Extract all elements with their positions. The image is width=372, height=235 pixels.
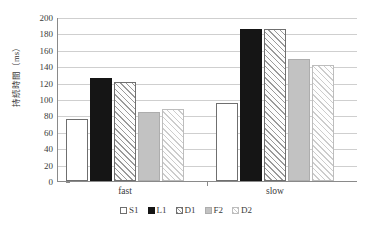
bar-fast-s1[interactable] — [66, 119, 88, 181]
legend-item-d2[interactable]: D2 — [232, 206, 252, 215]
legend-label: D1 — [185, 206, 196, 215]
y-tick-label: 20 — [19, 162, 53, 171]
legend-swatch-icon — [148, 207, 155, 214]
bar-group-fast — [66, 18, 186, 181]
bar-slow-l1[interactable] — [240, 29, 262, 181]
legend-label: S1 — [129, 206, 139, 215]
y-tick-label: 140 — [19, 63, 53, 72]
legend-swatch-icon — [232, 207, 239, 214]
y-tick-label: 60 — [19, 129, 53, 138]
y-tick-label: 40 — [19, 145, 53, 154]
bar-slow-d2[interactable] — [312, 65, 334, 181]
y-tick-label: 100 — [19, 96, 53, 105]
x-tick-mark — [207, 182, 208, 186]
legend-item-l1[interactable]: L1 — [148, 206, 167, 215]
legend-swatch-icon — [120, 207, 127, 214]
legend-label: L1 — [157, 206, 167, 215]
y-tick-label: 180 — [19, 30, 53, 39]
legend-label: D2 — [241, 206, 252, 215]
y-tick-label: 120 — [19, 80, 53, 89]
bar-slow-f2[interactable] — [288, 59, 310, 181]
x-axis-label-slow: slow — [235, 186, 315, 196]
x-axis-label-fast: fast — [85, 186, 165, 196]
bar-slow-d1[interactable] — [264, 29, 286, 181]
legend-swatch-icon — [205, 207, 212, 214]
chart-legend: S1 L1 D1 F2 D2 — [0, 206, 372, 215]
legend-item-f2[interactable]: F2 — [205, 206, 224, 215]
legend-swatch-icon — [176, 207, 183, 214]
bar-fast-f2[interactable] — [138, 112, 160, 181]
y-tick-label: 0 — [19, 178, 53, 187]
plot-area — [57, 18, 357, 182]
bar-slow-s1[interactable] — [216, 103, 238, 181]
bar-group-slow — [216, 18, 336, 181]
y-tick-label: 200 — [19, 14, 53, 23]
bar-chart: 持続時間（ms） 200 180 160 140 120 100 80 60 4… — [0, 0, 372, 235]
legend-item-d1[interactable]: D1 — [176, 206, 196, 215]
bar-fast-d2[interactable] — [162, 109, 184, 181]
bar-fast-d1[interactable] — [114, 82, 136, 181]
y-tick-label: 160 — [19, 47, 53, 56]
bar-fast-l1[interactable] — [90, 78, 112, 181]
legend-item-s1[interactable]: S1 — [120, 206, 139, 215]
legend-label: F2 — [214, 206, 224, 215]
y-axis-ticks: 200 180 160 140 120 100 80 60 40 20 0 — [13, 18, 53, 182]
y-tick-label: 80 — [19, 112, 53, 121]
